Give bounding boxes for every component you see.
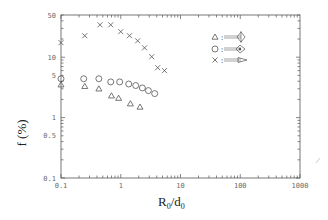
- data-markers: [58, 22, 167, 109]
- triangle-marker: [108, 93, 114, 98]
- y-axis-title: f (%): [14, 119, 29, 146]
- triangle-marker: [96, 86, 102, 91]
- y-tick-label: 0.1: [43, 175, 56, 183]
- circle-marker: [108, 79, 114, 85]
- legend: :::: [212, 31, 247, 65]
- legend-triangle-icon: [212, 34, 218, 39]
- legend-separator: :: [220, 57, 224, 65]
- x-marker: [142, 45, 147, 50]
- x-tick-label: 0.1: [55, 182, 68, 190]
- circle-marker: [126, 81, 132, 87]
- x-marker: [98, 22, 103, 27]
- x-tick-label: 100: [234, 182, 247, 190]
- x-marker: [127, 33, 132, 38]
- y-tick-label: 10: [48, 54, 56, 62]
- x-marker: [135, 38, 140, 43]
- axis-ticks: [61, 15, 300, 178]
- circle-marker: [81, 76, 87, 82]
- circle-marker: [145, 88, 151, 94]
- x-marker: [162, 68, 167, 73]
- triangle-marker: [116, 95, 122, 100]
- x-axis-title: R0/d0: [158, 194, 185, 211]
- legend-x-icon: [213, 58, 218, 63]
- y-tick-label: 5: [52, 72, 56, 80]
- plot-frame: [61, 15, 300, 178]
- legend-circle-icon: [212, 46, 218, 52]
- nozzle-glyph-icon: [224, 45, 245, 53]
- triangle-marker: [137, 104, 143, 109]
- x-marker: [108, 22, 113, 27]
- x-tick-label: 1: [119, 182, 123, 190]
- x-tick-label: 1000: [292, 182, 309, 190]
- triangle-marker: [82, 83, 88, 88]
- circle-marker: [152, 91, 158, 97]
- triangle-marker: [127, 101, 133, 106]
- circle-marker: [96, 76, 102, 82]
- y-tick-label: 1: [52, 114, 56, 122]
- chart: 0.111010010005010510.50.1 ::: f (%) R0/d…: [0, 0, 328, 220]
- circle-marker: [117, 79, 123, 85]
- y-tick-label: 0.5: [43, 132, 56, 140]
- tick-labels: 0.111010010005010510.50.1: [43, 12, 308, 191]
- legend-separator: :: [220, 46, 224, 54]
- y-tick-label: 50: [48, 12, 56, 20]
- circle-marker: [133, 83, 139, 89]
- x-marker: [118, 29, 123, 34]
- nozzle-glyph-icon: [224, 31, 245, 43]
- stray-mark: [316, 158, 320, 163]
- circle-marker: [139, 85, 145, 91]
- x-marker: [82, 33, 87, 38]
- x-marker: [155, 65, 160, 70]
- legend-separator: :: [220, 34, 224, 42]
- x-marker: [149, 54, 154, 59]
- nozzle-glyph-icon: [224, 58, 247, 63]
- x-tick-label: 10: [176, 182, 184, 190]
